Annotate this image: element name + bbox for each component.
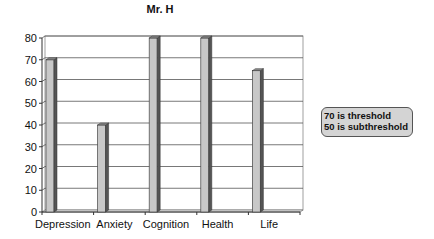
bar-cognition — [149, 38, 157, 212]
annotation-line-threshold: 70 is threshold — [324, 110, 412, 121]
y-tick-label: 70 — [25, 54, 37, 66]
bar-life — [252, 71, 260, 212]
x-category-label: Health — [202, 218, 234, 230]
annotation-line-subthreshold: 50 is subthreshold — [324, 121, 412, 132]
y-tick-label: 80 — [25, 32, 37, 44]
bar-side — [157, 36, 160, 212]
x-category-label: Life — [260, 218, 278, 230]
bar-side — [106, 123, 109, 212]
x-category-label: Depression — [35, 218, 91, 230]
bar-side — [54, 58, 57, 212]
x-category-label: Anxiety — [96, 218, 133, 230]
bar-side — [260, 69, 263, 212]
bar-health — [201, 38, 209, 212]
y-tick-label: 10 — [25, 184, 37, 196]
y-tick-label: 20 — [25, 163, 37, 175]
bar-side — [209, 36, 212, 212]
x-category-label: Cognition — [143, 218, 189, 230]
y-tick-label: 50 — [25, 97, 37, 109]
bar-depression — [46, 60, 54, 212]
y-tick-label: 0 — [31, 206, 37, 218]
threshold-annotation: 70 is threshold 50 is subthreshold — [321, 107, 413, 137]
y-tick-label: 30 — [25, 141, 37, 153]
gridline-depth — [42, 36, 45, 38]
bar-anxiety — [98, 125, 106, 212]
y-tick-label: 60 — [25, 76, 37, 88]
y-tick-label: 40 — [25, 119, 37, 131]
